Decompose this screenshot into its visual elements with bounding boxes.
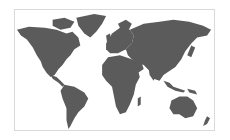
- arctic-islands: [53, 18, 75, 30]
- map-frame: [14, 9, 215, 131]
- new-guinea: [187, 89, 197, 95]
- africa: [102, 55, 140, 114]
- australia: [169, 97, 197, 119]
- new-zealand: [203, 116, 210, 126]
- madagascar: [138, 97, 141, 107]
- greenland: [76, 14, 106, 38]
- south-america: [61, 85, 89, 129]
- north-america: [17, 27, 80, 77]
- central-america: [51, 75, 65, 87]
- uk: [106, 34, 111, 43]
- indonesia: [164, 81, 186, 93]
- world-map: [15, 10, 214, 130]
- japan: [187, 45, 195, 57]
